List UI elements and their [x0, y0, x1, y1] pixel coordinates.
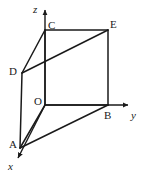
axes-group: [18, 10, 128, 158]
edge-d-a: [20, 73, 22, 148]
edges-group: [20, 30, 108, 148]
vertex-label-a: A: [9, 139, 17, 150]
geometry-canvas: [0, 0, 143, 175]
vertex-label-d: D: [9, 66, 17, 77]
axis-label-z: z: [33, 4, 37, 15]
edge-d-e: [22, 30, 108, 73]
vertex-label-e: E: [110, 19, 117, 30]
geometry-figure: OCEBDAzyx: [0, 0, 143, 175]
axis-label-y: y: [131, 110, 136, 121]
vertex-label-o: O: [34, 96, 42, 107]
vertex-label-c: C: [48, 20, 55, 31]
axis-label-x: x: [8, 161, 13, 172]
vertex-label-b: B: [104, 110, 111, 121]
